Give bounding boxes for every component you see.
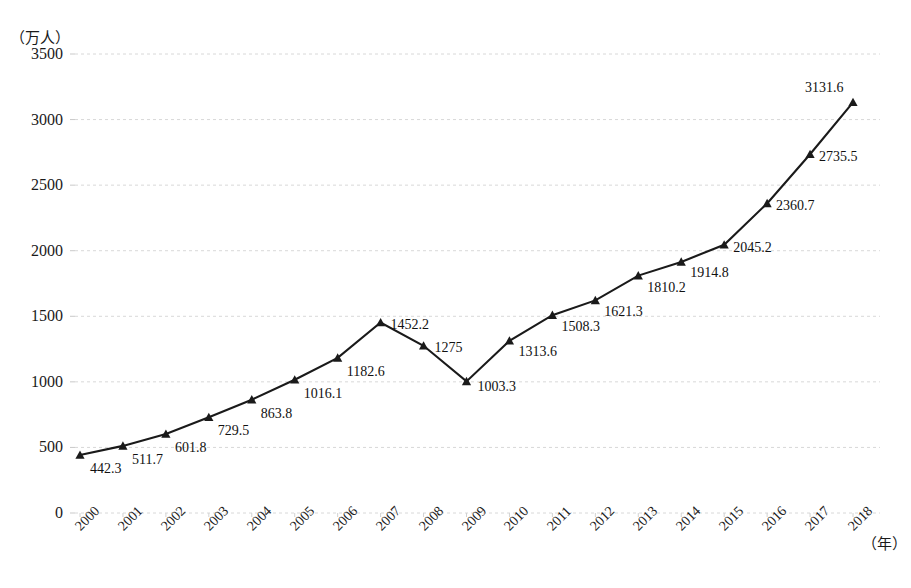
data-point-value-label: 2735.5 [819,149,858,165]
data-point-value-label: 2045.2 [733,240,772,256]
data-point-value-label: 2360.7 [776,198,815,214]
data-point-marker [290,375,299,383]
data-point-value-label: 863.8 [261,406,293,422]
data-point-value-label: 1914.8 [690,265,729,281]
data-point-marker [376,318,385,326]
y-axis-tick-label: 3500 [0,45,63,63]
data-point-value-label: 1313.6 [518,344,557,360]
data-point-value-label: 729.5 [218,423,250,439]
data-point-marker [591,296,600,304]
data-point-value-label: 1003.3 [478,379,517,395]
data-markers-group [75,98,857,459]
data-point-marker [419,341,428,349]
line-chart-canvas [0,0,911,588]
chart-container: （万人） （年） 0500100015002000250030003500 20… [0,0,911,588]
y-axis-tick-label: 500 [0,438,63,456]
y-axis-tick-label: 0 [0,504,63,522]
data-point-value-label: 1810.2 [647,280,686,296]
data-point-value-label: 1621.3 [604,304,643,320]
data-point-value-label: 3131.6 [805,80,844,96]
data-point-value-label: 511.7 [132,452,163,468]
data-point-value-label: 442.3 [90,461,122,477]
data-point-value-label: 1275 [435,340,463,356]
y-axis-tick-label: 2000 [0,242,63,260]
y-axis-tick-label: 1500 [0,307,63,325]
y-axis-tick-label: 1000 [0,373,63,391]
y-axis-tick-label: 2500 [0,176,63,194]
data-line [80,102,853,455]
y-axis-tick-label: 3000 [0,111,63,129]
y-axis-unit-label: （万人） [10,26,70,47]
data-point-value-label: 1452.2 [391,317,430,333]
data-point-value-label: 1182.6 [347,364,385,380]
data-point-marker [848,98,857,106]
x-axis-unit-label: （年） [862,532,907,553]
data-point-value-label: 1508.3 [561,319,600,335]
data-point-marker [505,336,514,344]
data-point-value-label: 1016.1 [304,386,343,402]
data-point-value-label: 601.8 [175,440,207,456]
